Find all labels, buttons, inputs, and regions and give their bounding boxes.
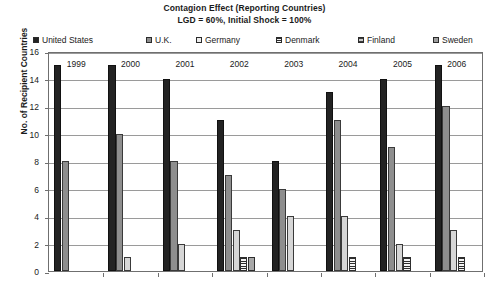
x-tick-mark [212, 273, 213, 277]
x-tick-mark [484, 273, 485, 277]
bar-2005-germany[interactable] [396, 244, 403, 272]
y-tick-label: 12 [13, 103, 39, 111]
legend-swatch-icon [146, 37, 152, 43]
bar-2004-denmark[interactable] [349, 257, 356, 271]
y-tick-label: 4 [13, 213, 39, 221]
bar-group-2003 [272, 53, 318, 271]
bar-2003-germany[interactable] [287, 216, 294, 271]
bar-group-2006 [435, 53, 481, 271]
bar-2004-germany[interactable] [341, 216, 348, 271]
x-tick-mark [375, 273, 376, 277]
bar-2000-u-k[interactable] [116, 134, 123, 272]
legend-label: U.K. [155, 35, 172, 45]
x-tick-mark [321, 273, 322, 277]
y-tick-mark [45, 163, 49, 164]
bar-group-1999 [54, 53, 100, 271]
chart-title-block: Contagion Effect (Reporting Countries) L… [0, 3, 489, 26]
bar-2004-united-states[interactable] [326, 92, 333, 271]
x-tick-label: 2002 [212, 59, 266, 69]
bar-2003-united-states[interactable] [272, 161, 279, 271]
x-tick-mark [267, 273, 268, 277]
bar-2006-germany[interactable] [450, 230, 457, 271]
legend-item-germany[interactable]: Germany [196, 33, 240, 46]
contagion-effect-bar-chart: Contagion Effect (Reporting Countries) L… [0, 0, 489, 303]
y-tick-mark [45, 218, 49, 219]
x-tick-label: 1999 [49, 59, 103, 69]
y-tick-label: 10 [13, 131, 39, 139]
legend-item-sweden[interactable]: Sweden [433, 33, 473, 46]
bar-group-2002 [217, 53, 263, 271]
bar-2005-denmark[interactable] [403, 257, 410, 271]
y-tick-mark [45, 245, 49, 246]
y-tick-label: 14 [13, 76, 39, 84]
y-tick-label: 8 [13, 158, 39, 166]
legend-label: United States [42, 35, 93, 45]
legend-swatch-icon [358, 37, 364, 43]
bar-2002-u-k[interactable] [225, 175, 232, 271]
x-tick-mark [430, 273, 431, 277]
y-tick-mark [45, 53, 49, 54]
bar-2005-u-k[interactable] [388, 147, 395, 271]
x-tick-mark [158, 273, 159, 277]
y-tick-label: 0 [13, 268, 39, 276]
bar-2004-u-k[interactable] [334, 120, 341, 271]
legend-swatch-icon [33, 37, 39, 43]
chart-subtitle: LGD = 60%, Initial Shock = 100% [0, 15, 489, 27]
y-tick-mark [45, 80, 49, 81]
bar-1999-u-k[interactable] [62, 161, 69, 271]
bar-group-2000 [108, 53, 154, 271]
legend-label: Sweden [442, 35, 473, 45]
bar-2002-finland[interactable] [248, 257, 255, 271]
x-tick-label: 2000 [103, 59, 157, 69]
y-tick-label: 16 [13, 48, 39, 56]
chart-legend: United StatesU.K.GermanyDenmarkFinlandSw… [33, 33, 473, 46]
bar-2001-united-states[interactable] [163, 79, 170, 272]
bar-2006-u-k[interactable] [442, 106, 449, 271]
y-tick-mark [45, 108, 49, 109]
bar-2002-denmark[interactable] [240, 257, 247, 271]
bar-2006-denmark[interactable] [458, 257, 465, 271]
legend-item-denmark[interactable]: Denmark [276, 33, 319, 46]
chart-title: Contagion Effect (Reporting Countries) [0, 3, 489, 15]
bar-2000-germany[interactable] [124, 257, 131, 271]
bar-2002-germany[interactable] [233, 230, 240, 271]
bar-2005-united-states[interactable] [380, 79, 387, 272]
legend-item-united-states[interactable]: United States [33, 33, 93, 46]
y-tick-label: 6 [13, 186, 39, 194]
plot-area: 0246810121416199920002001200220032004200… [48, 52, 483, 272]
legend-item-u-k[interactable]: U.K. [146, 33, 172, 46]
bar-2002-united-states[interactable] [217, 120, 224, 271]
y-tick-mark [45, 190, 49, 191]
y-tick-mark [45, 135, 49, 136]
legend-label: Germany [205, 35, 240, 45]
x-tick-label: 2006 [430, 59, 484, 69]
legend-label: Finland [367, 35, 395, 45]
x-tick-label: 2004 [321, 59, 375, 69]
y-tick-mark [45, 273, 49, 274]
legend-label: Denmark [285, 35, 319, 45]
bar-group-2004 [326, 53, 372, 271]
x-tick-label: 2005 [375, 59, 429, 69]
bar-2001-u-k[interactable] [170, 161, 177, 271]
legend-swatch-icon [196, 37, 202, 43]
bar-2006-united-states[interactable] [435, 65, 442, 271]
bar-1999-united-states[interactable] [54, 65, 61, 271]
y-tick-label: 2 [13, 241, 39, 249]
x-tick-label: 2003 [267, 59, 321, 69]
bar-2003-u-k[interactable] [279, 189, 286, 272]
bar-group-2001 [163, 53, 209, 271]
legend-swatch-icon [276, 37, 282, 43]
bar-group-2005 [380, 53, 426, 271]
x-tick-label: 2001 [158, 59, 212, 69]
legend-item-finland[interactable]: Finland [358, 33, 395, 46]
bar-2000-united-states[interactable] [108, 65, 115, 271]
bar-2001-germany[interactable] [178, 244, 185, 272]
x-tick-mark [103, 273, 104, 277]
legend-swatch-icon [433, 37, 439, 43]
